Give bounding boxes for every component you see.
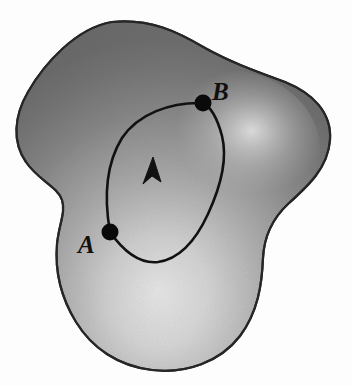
blob-figure-svg: A B — [0, 0, 352, 386]
figure-container: A B — [0, 0, 352, 386]
point-A-dot — [102, 224, 119, 241]
region-group — [0, 0, 352, 386]
point-B-dot — [195, 95, 212, 112]
point-A-label: A — [76, 231, 95, 258]
point-B-label: B — [211, 78, 229, 105]
